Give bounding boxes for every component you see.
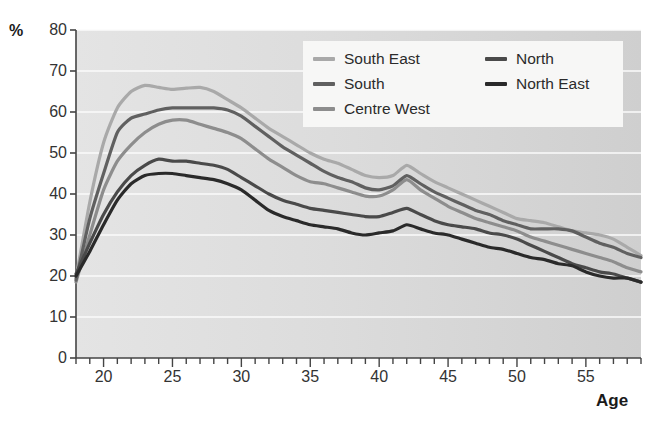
legend-item-north-east[interactable]: North East [485,75,589,93]
legend-swatch-icon [313,57,335,61]
legend-item-label: South [344,75,385,93]
legend-item-south-east[interactable]: South East [313,50,420,68]
legend-swatch-icon [313,82,335,86]
legend-item-label: Centre West [344,100,430,118]
legend-item-label: South East [344,50,420,68]
legend-item-label: North East [516,75,589,93]
legend-swatch-icon [485,82,507,86]
legend-swatch-icon [313,107,335,111]
legend-item-centre-west[interactable]: Centre West [313,100,430,118]
chart-legend: South EastSouthCentre WestNorthNorth Eas… [303,41,623,127]
line-chart: % Age 01020304050607080 2025303540455055… [0,0,659,423]
legend-item-south[interactable]: South [313,75,385,93]
legend-item-north[interactable]: North [485,50,554,68]
legend-swatch-icon [485,57,507,61]
legend-item-label: North [516,50,554,68]
